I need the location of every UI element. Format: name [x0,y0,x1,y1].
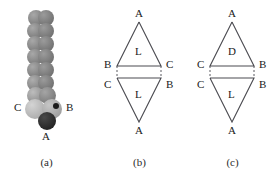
top-left-label: C [197,58,204,70]
panel-c: A C B D C B L A (c) [186,0,279,176]
bottom-inner-label: L [135,88,142,100]
label-a: A [42,130,50,142]
panel-b: A B C L C B L A (b) [93,0,186,176]
panel-a: C B A (a) [0,0,93,176]
bottom-apex-label: A [228,124,236,136]
panel-a-caption: (a) [0,156,93,168]
figure-container: C B A (a) A B C L C B L A [0,0,279,176]
top-inner-label: L [135,45,142,57]
bottom-right-label: B [259,78,266,90]
label-b: B [66,101,73,113]
bottom-apex-label: A [135,124,143,136]
label-c: C [14,101,21,113]
top-triangle-outline [210,22,254,66]
triangle-pair-diagram-b: A B C L C B L A [93,0,186,150]
bottom-right-label: B [166,78,173,90]
top-left-label: B [104,58,111,70]
top-triangle-outline [117,22,161,66]
bottom-triangle-outline [117,78,161,122]
triangle-pair-diagram-c: A C B D C B L A [186,0,279,150]
bottom-inner-label: L [228,88,235,100]
sphere-chain-model: C B A [0,0,93,150]
panel-b-caption: (b) [93,156,186,168]
bottom-left-label: C [197,78,204,90]
top-right-label: C [166,58,173,70]
bottom-left-label: C [104,78,111,90]
top-apex-label: A [135,7,143,19]
top-inner-label: D [228,45,236,57]
panel-c-caption: (c) [186,156,279,168]
bottom-triangle-outline [210,78,254,122]
top-right-label: B [259,58,266,70]
terminal-sphere-a [38,112,56,130]
marker-dot [53,103,59,109]
top-apex-label: A [228,7,236,19]
